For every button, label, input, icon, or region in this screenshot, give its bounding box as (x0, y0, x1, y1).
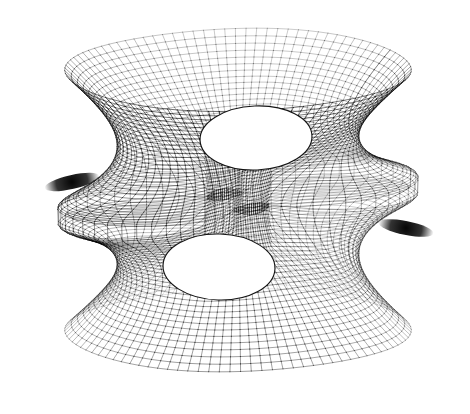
costa-surface-wireframe-canvas (0, 0, 470, 414)
figure-root: Wireframe rendering of a genus-one tripl… (0, 0, 470, 414)
